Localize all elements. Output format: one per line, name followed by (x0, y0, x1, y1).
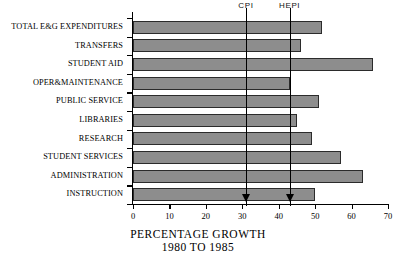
reference-arrow-hepi-icon (286, 194, 294, 202)
category-label: TRANSFERS (0, 37, 128, 56)
reference-line-hepi (290, 8, 291, 206)
bar-row (133, 185, 388, 204)
bar-row (133, 148, 388, 167)
bar-row (133, 18, 388, 37)
bar-row (133, 167, 388, 186)
axis-title: PERCENTAGE GROWTH 1980 TO 1985 (0, 228, 396, 253)
category-label: ADMINISTRATION (0, 167, 128, 186)
category-label: STUDENT AID (0, 55, 128, 74)
bar-row (133, 111, 388, 130)
x-axis-tick (315, 204, 316, 209)
bar (133, 39, 301, 52)
bar (133, 58, 373, 71)
reference-line-cpi (246, 8, 247, 206)
bar (133, 151, 341, 164)
bar (133, 21, 322, 34)
bar (133, 170, 363, 183)
category-label: RESEARCH (0, 130, 128, 149)
x-axis-tick-label: 0 (131, 211, 135, 221)
reference-arrow-cpi-icon (242, 194, 250, 202)
x-axis-tick (169, 204, 170, 209)
bar (133, 114, 297, 127)
bar-row (133, 55, 388, 74)
bar-row (133, 92, 388, 111)
x-axis-tick-label: 60 (347, 211, 356, 221)
category-axis-labels: TOTAL E&G EXPENDITURES TRANSFERS STUDENT… (0, 18, 128, 204)
x-axis-tick (133, 204, 134, 209)
category-label: STUDENT SERVICES (0, 148, 128, 167)
x-axis-tick (388, 204, 389, 209)
category-label: PUBLIC SERVICE (0, 92, 128, 111)
category-label: OPER&MAINTENANCE (0, 74, 128, 93)
bar (133, 77, 290, 90)
x-axis-tick-label: 50 (311, 211, 320, 221)
x-axis-tick-label: 70 (384, 211, 393, 221)
x-axis-tick-label: 20 (202, 211, 211, 221)
bar-series (133, 18, 388, 204)
bar-row (133, 130, 388, 149)
category-label: INSTRUCTION (0, 185, 128, 204)
reference-label-cpi: CPI (238, 1, 253, 10)
category-label: TOTAL E&G EXPENDITURES (0, 18, 128, 37)
axis-title-line-1: PERCENTAGE GROWTH (0, 228, 396, 240)
x-axis-tick-label: 40 (274, 211, 283, 221)
bar (133, 132, 312, 145)
x-axis-tick (352, 204, 353, 209)
bar-row (133, 74, 388, 93)
axis-title-line-2: 1980 TO 1985 (0, 241, 396, 253)
bar-row (133, 37, 388, 56)
plot-area: CPIHEPI (133, 18, 388, 204)
reference-label-hepi: HEPI (279, 1, 300, 10)
category-label: LIBRARIES (0, 111, 128, 130)
x-axis-tick (242, 204, 243, 209)
x-axis-tick (206, 204, 207, 209)
x-axis-tick (279, 204, 280, 209)
x-axis-tick-label: 10 (165, 211, 174, 221)
bar-chart: TOTAL E&G EXPENDITURES TRANSFERS STUDENT… (0, 0, 396, 265)
x-axis-tick-label: 30 (238, 211, 247, 221)
